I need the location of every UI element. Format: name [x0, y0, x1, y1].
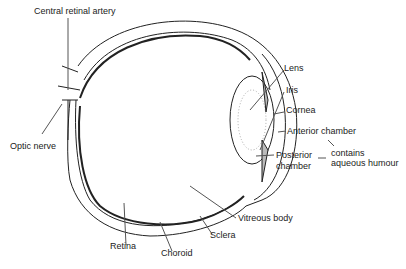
label-retina: Retina: [110, 241, 136, 252]
label-contains-line2: aqueous humour: [331, 158, 399, 169]
label-vitreous-body: Vitreous body: [238, 213, 293, 224]
label-sclera: Sclera: [210, 230, 236, 241]
sclera-outline: [68, 21, 297, 236]
label-iris: Iris: [286, 85, 298, 96]
label-anterior-chamber: Anterior chamber: [287, 126, 356, 137]
label-central-retinal-artery: Central retinal artery: [34, 6, 116, 17]
label-choroid: Choroid: [161, 248, 193, 259]
label-posterior-chamber-line2: chamber: [276, 161, 311, 172]
label-posterior-chamber-line1: Posterior: [276, 150, 312, 161]
label-cornea: Cornea: [286, 105, 316, 116]
label-optic-nerve: Optic nerve: [10, 141, 56, 152]
label-lens: Lens: [284, 63, 304, 74]
